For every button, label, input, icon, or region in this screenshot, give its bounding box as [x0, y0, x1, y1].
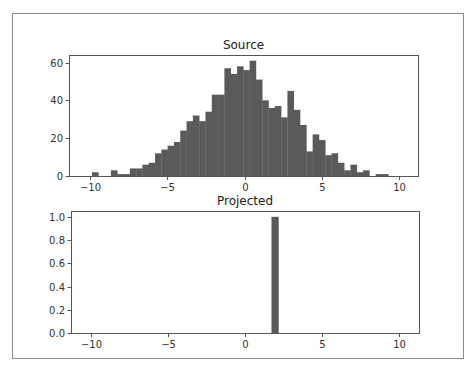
y-tick-label: 60 — [50, 58, 63, 69]
histogram-bar — [199, 121, 206, 176]
x-tick-label: 5 — [319, 182, 325, 193]
histogram-bar — [155, 153, 162, 176]
y-tick-label: 0.2 — [49, 305, 65, 316]
histogram-bar — [256, 80, 263, 176]
histogram-bar — [111, 170, 118, 176]
histogram-bar — [350, 165, 357, 176]
histogram-bar — [269, 108, 276, 176]
histogram-bar — [344, 170, 351, 176]
x-tick-label: 10 — [393, 182, 406, 193]
x-tick-label: 0 — [242, 182, 248, 193]
histogram-bar — [130, 168, 137, 176]
histogram-bar — [205, 112, 212, 176]
histogram-bar — [287, 91, 294, 176]
histogram-bar — [363, 170, 370, 176]
histogram-bar — [149, 163, 156, 176]
histogram-bar — [281, 117, 288, 176]
histogram-bar — [319, 140, 326, 176]
projected-histogram-axes: −10−505100.00.20.40.60.81.0Projected — [49, 194, 419, 350]
source-histogram-axes: −10−505100204060Source — [50, 38, 418, 193]
histogram-bar — [325, 155, 332, 176]
y-tick-label: 1.0 — [49, 212, 65, 223]
histogram-bar — [92, 172, 99, 176]
histogram-bar — [231, 74, 238, 176]
x-tick-label: −10 — [81, 339, 102, 350]
histogram-bar — [275, 106, 282, 176]
histogram-bar — [250, 61, 257, 176]
figure: −10−505100204060Source −10−505100.00.20.… — [0, 0, 473, 370]
x-tick-label: −10 — [80, 182, 101, 193]
histogram-bar — [142, 165, 149, 176]
y-tick-label: 20 — [50, 133, 63, 144]
histogram-bars — [271, 217, 278, 333]
y-tick-label: 0 — [57, 171, 63, 182]
histogram-bar — [218, 95, 225, 176]
histogram-bar — [117, 174, 124, 176]
histogram-bar — [224, 68, 231, 176]
histogram-bar — [332, 153, 339, 176]
histogram-bar — [174, 142, 181, 176]
chart-title: Source — [223, 38, 264, 52]
histogram-bar — [300, 125, 307, 176]
y-tick-label: 0.8 — [49, 235, 65, 246]
histogram-bar — [212, 95, 219, 176]
histogram-bar — [357, 172, 364, 176]
y-tick-label: 0.6 — [49, 258, 65, 269]
histogram-bar — [168, 146, 175, 176]
histogram-bar — [338, 163, 345, 176]
x-tick-label: −5 — [161, 339, 176, 350]
x-tick-label: 10 — [393, 339, 406, 350]
histogram-bar — [161, 150, 168, 176]
histogram-bar — [243, 70, 250, 176]
histogram-bar — [193, 116, 200, 177]
plot-area — [71, 211, 419, 333]
histogram-bar — [180, 131, 187, 176]
histogram-bar — [382, 174, 389, 176]
histogram-bar — [271, 217, 278, 333]
histogram-bar — [237, 66, 244, 176]
chart-title: Projected — [217, 194, 273, 208]
x-tick-label: −5 — [160, 182, 175, 193]
histogram-bar — [136, 168, 143, 176]
histogram-bar — [313, 134, 320, 176]
histogram-bar — [376, 174, 383, 176]
histogram-bar — [262, 100, 269, 176]
y-tick-label: 0.0 — [49, 328, 65, 339]
x-tick-label: 0 — [242, 339, 248, 350]
x-tick-label: 5 — [319, 339, 325, 350]
histogram-bar — [187, 121, 194, 176]
histogram-bar — [294, 110, 301, 176]
histogram-bar — [306, 151, 313, 176]
y-tick-label: 0.4 — [49, 282, 65, 293]
y-tick-label: 40 — [50, 95, 63, 106]
histogram-bar — [124, 174, 131, 176]
